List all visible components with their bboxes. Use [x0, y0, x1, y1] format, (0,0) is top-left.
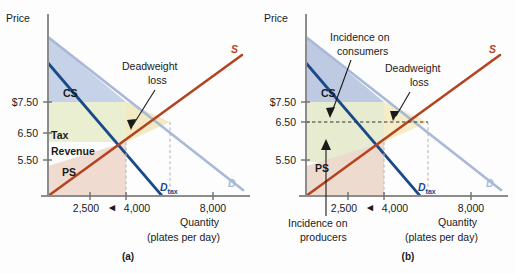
- x-axis-arrow-icon: ◄: [107, 201, 117, 213]
- curve-label-demand-tax: Dtax: [418, 181, 436, 195]
- y-axis-label: Price: [264, 12, 288, 24]
- annotation-deadweight-loss-line2: loss: [410, 76, 429, 88]
- x-tick-label-2500: 2,500: [331, 202, 357, 214]
- region-label-cs: CS: [321, 87, 336, 99]
- y-tick-label-650: 6.50: [276, 116, 297, 128]
- y-tick-label-750: $7.50: [12, 96, 38, 108]
- x-axis-arrow-icon: ◄: [365, 201, 375, 213]
- annotation-deadweight-loss-line2: loss: [148, 74, 167, 86]
- x-tick-label-2500: 2,500: [73, 202, 99, 214]
- region-label-ps: PS: [62, 166, 76, 178]
- x-tick-label-8000: 8,000: [458, 202, 484, 214]
- panel-label-a: (a): [122, 251, 134, 262]
- y-axis-label: Price: [6, 12, 30, 24]
- curve-label-demand-tax-sub: tax: [426, 188, 436, 195]
- region-label-cs: CS: [63, 87, 78, 99]
- x-tick-label-8000: 8,000: [200, 202, 226, 214]
- curve-label-demand: D: [486, 177, 494, 189]
- panel-b: Price Quantity (plates per day) $7.50 6.…: [258, 0, 515, 274]
- annotation-incidence-on-producers-line2: producers: [300, 231, 347, 243]
- curve-label-demand-tax: Dtax: [160, 181, 178, 195]
- x-tick-label-4000: 4,000: [382, 202, 408, 214]
- panel-a: Price Quantity (plates per day) $7.50 6.…: [0, 0, 257, 274]
- x-axis-label: Quantity: [438, 216, 478, 228]
- region-label-tax-revenue-line1: Tax: [51, 129, 68, 141]
- annotation-incidence-on-consumers-line2: consumers: [337, 45, 388, 57]
- y-tick-label-650: 6.50: [18, 127, 39, 139]
- annotation-deadweight-loss-line1: Deadweight: [385, 62, 441, 74]
- curve-label-supply: S: [489, 43, 496, 55]
- x-axis-sublabel: (plates per day): [405, 231, 478, 243]
- y-tick-label-750: $7.50: [270, 96, 296, 108]
- tax-incidence-figure: Price Quantity (plates per day) $7.50 6.…: [0, 0, 515, 274]
- region-label-tax-revenue-line2: Revenue: [51, 145, 95, 157]
- annotation-incidence-on-producers-line1: Incidence on: [288, 217, 348, 229]
- panel-label-b: (b): [402, 251, 415, 262]
- curve-label-demand-tax-sub: tax: [168, 188, 178, 195]
- annotation-deadweight-loss-line1: Deadweight: [122, 60, 178, 72]
- x-tick-label-4000: 4,000: [124, 202, 150, 214]
- x-axis-sublabel: (plates per day): [147, 231, 220, 243]
- curve-label-supply: S: [231, 43, 238, 55]
- annotation-incidence-on-consumers-line1: Incidence on: [330, 31, 390, 43]
- y-tick-label-550: 5.50: [276, 154, 297, 166]
- region-label-ps: PS: [315, 162, 329, 174]
- y-tick-label-550: 5.50: [18, 154, 39, 166]
- x-axis-label: Quantity: [180, 216, 220, 228]
- curve-label-demand: D: [228, 177, 236, 189]
